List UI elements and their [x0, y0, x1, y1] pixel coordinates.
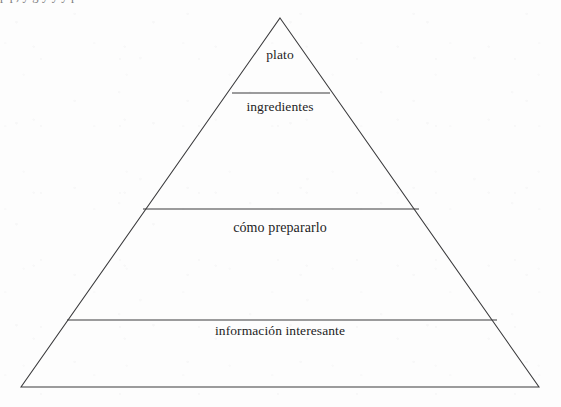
pyramid-tier-label-1: ingredientes: [246, 99, 313, 115]
pyramid-tier-label-3: información interesante: [215, 323, 345, 339]
pyramid-tier-label-0: plato: [266, 47, 294, 63]
pyramid-tier-label-2: cómo prepararlo: [233, 220, 327, 236]
pyramid-tier-dividers: [67, 93, 497, 320]
